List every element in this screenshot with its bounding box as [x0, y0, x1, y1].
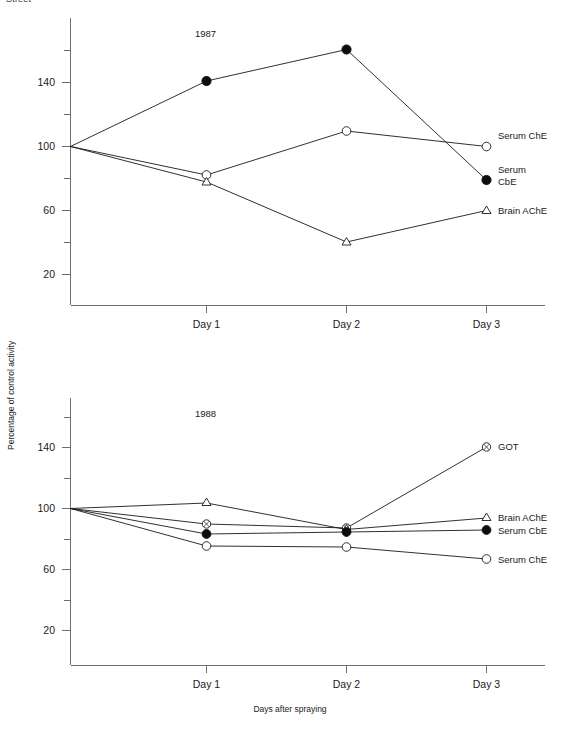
legend-label-brain-ache-1987: Brain AChE [498, 205, 547, 216]
data-point-got-1988-day1 [202, 520, 210, 528]
series-serum-cbe-1987 [71, 45, 492, 185]
y-axis-title: Percentage of control activity [6, 340, 16, 450]
data-point-serum-cbe-1987-day2 [342, 45, 351, 54]
chart-panel-1988: 1988 140 100 60 20 Day 1 Day 2 [37, 398, 547, 714]
data-point-serum-cbe-1988-day1 [202, 530, 211, 539]
data-point-brain-ache-1988-day3 [482, 513, 491, 521]
x-tick-label-day2-bottom: Day 2 [333, 678, 361, 690]
data-point-serum-cbe-1987-day3 [482, 175, 491, 184]
y-tick-label-60-bottom: 60 [43, 563, 55, 575]
series-brain-ache-1988 [71, 498, 492, 532]
legend-label-serum-che-1987: Serum ChE [498, 130, 547, 141]
x-tick-label-day3-top: Day 3 [473, 318, 501, 330]
x-ticks-top: Day 1 Day 2 Day 3 [193, 306, 501, 331]
panel-title-1987: 1987 [195, 28, 216, 39]
y-tick-label-140-top: 140 [37, 76, 55, 88]
legend-1988: GOT Brain AChE Serum CbE Serum ChE [498, 441, 547, 565]
series-line-serum-che-1987 [71, 131, 487, 175]
y-tick-label-20-top: 20 [43, 268, 55, 280]
x-tick-label-day1-bottom: Day 1 [193, 678, 221, 690]
legend-label-serum-cbe-1987-line1: Serum [498, 164, 526, 175]
y-tick-label-20-bottom: 20 [43, 624, 55, 636]
series-line-serum-cbe-1987 [71, 50, 487, 181]
x-tick-label-day2-top: Day 2 [333, 318, 361, 330]
series-line-got-1988 [71, 447, 487, 528]
data-point-serum-che-1988-day1 [202, 542, 211, 551]
data-point-brain-ache-1987-day3 [482, 206, 491, 214]
y-tick-label-60-top: 60 [43, 204, 55, 216]
x-tick-label-day3-bottom: Day 3 [473, 678, 501, 690]
data-point-got-1988-day3 [482, 443, 490, 451]
data-point-brain-ache-1988-day1 [202, 498, 211, 506]
y-tick-label-140-bottom: 140 [37, 441, 55, 453]
data-point-serum-cbe-1987-day1 [202, 76, 211, 85]
x-tick-label-day1-top: Day 1 [193, 318, 221, 330]
legend-label-got-1988: GOT [498, 441, 519, 452]
y-tick-label-100-top: 100 [37, 140, 55, 152]
y-tick-label-100-bottom: 100 [37, 502, 55, 514]
data-point-serum-che-1987-day3 [482, 142, 491, 151]
legend-label-serum-che-1988: Serum ChE [498, 554, 547, 565]
series-got-1988 [71, 443, 491, 532]
series-brain-ache-1987 [71, 147, 492, 246]
chart-panel-1987: 1987 140 100 60 20 Day 1 Day 2 [37, 18, 547, 330]
x-ticks-bottom: Day 1 Day 2 Day 3 [193, 666, 501, 691]
series-line-serum-cbe-1988 [71, 509, 487, 535]
series-serum-che-1987 [71, 127, 491, 180]
y-ticks-bottom: 140 100 60 20 [37, 418, 70, 637]
figure-root: Percentage of control activity 1987 140 … [0, 0, 578, 731]
data-point-serum-cbe-1988-day2 [342, 528, 351, 537]
legend-label-serum-cbe-1988: Serum CbE [498, 525, 547, 536]
series-line-brain-ache-1987 [71, 147, 487, 243]
data-point-serum-che-1988-day3 [482, 555, 491, 564]
panel-title-1988: 1988 [195, 408, 216, 419]
y-ticks-top: 140 100 60 20 [37, 51, 70, 281]
data-point-serum-cbe-1988-day3 [482, 526, 491, 535]
legend-label-serum-cbe-1987-line2: CbE [498, 176, 516, 187]
legend-1987: Serum ChE Serum CbE Brain AChE [498, 130, 547, 216]
x-axis-title: Days after spraying [253, 704, 326, 714]
series-line-serum-che-1988 [71, 509, 487, 560]
data-point-serum-che-1987-day2 [342, 127, 351, 136]
legend-label-brain-ache-1988: Brain AChE [498, 512, 547, 523]
data-point-serum-che-1988-day2 [342, 543, 351, 552]
series-serum-cbe-1988 [71, 509, 491, 539]
